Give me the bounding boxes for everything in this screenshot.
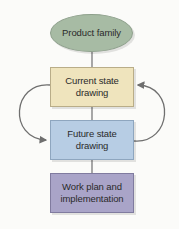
node-current-state-drawing: Current state drawing — [50, 67, 134, 107]
node-label: Current state drawing — [65, 75, 119, 99]
label-line: implementation — [60, 193, 123, 204]
label-line: Current state — [65, 75, 119, 86]
label-line: Work plan and — [62, 181, 122, 192]
node-label: Future state drawing — [67, 128, 117, 152]
label-line: drawing — [76, 140, 109, 151]
node-label: Work plan and implementation — [60, 181, 123, 205]
node-work-plan-implementation: Work plan and implementation — [50, 173, 134, 213]
label-line: drawing — [76, 87, 109, 98]
node-future-state-drawing: Future state drawing — [50, 120, 134, 160]
loop-arrow-left — [19, 85, 50, 140]
node-product-family: Product family — [50, 14, 133, 52]
loop-arrow-right — [134, 85, 165, 141]
node-label: Product family — [62, 27, 121, 39]
label-line: Future state — [67, 128, 117, 139]
